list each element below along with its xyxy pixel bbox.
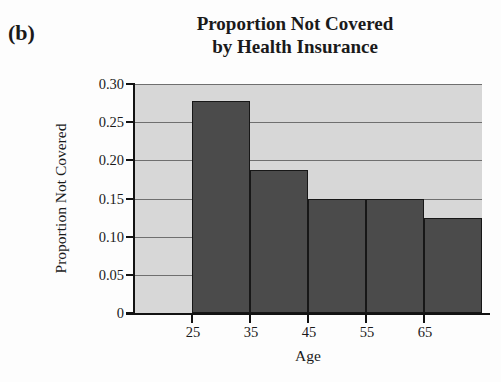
bar	[192, 101, 250, 313]
y-axis-tick	[126, 312, 135, 314]
bar	[366, 199, 424, 314]
y-axis-tick	[126, 159, 135, 161]
bar	[250, 170, 308, 313]
y-axis-tick-label: 0	[82, 306, 124, 321]
chart-title: Proportion Not Covered by Health Insuran…	[120, 12, 470, 58]
y-axis-tick-label: 0.25	[82, 115, 124, 130]
y-axis-tick-label: 0.05	[82, 268, 124, 283]
y-axis-tick	[126, 274, 135, 276]
y-axis-tick-label: 0.15	[82, 192, 124, 207]
x-axis-tick-label: 35	[231, 325, 271, 340]
chart-title-line-2: by Health Insurance	[120, 35, 470, 58]
plot-area	[134, 84, 482, 313]
bars-series	[134, 84, 482, 313]
x-axis-title: Age	[134, 348, 482, 364]
panel-label: (b)	[8, 22, 35, 44]
y-axis-tick-labels: 0.300.250.200.150.100.050	[78, 0, 124, 382]
y-axis-tick-label: 0.20	[82, 153, 124, 168]
x-axis-tick	[423, 314, 425, 323]
y-axis-title: Proportion Not Covered	[52, 84, 70, 313]
y-axis-tick	[126, 83, 135, 85]
bar	[308, 199, 366, 314]
x-axis-tick-label: 45	[289, 325, 329, 340]
y-axis-tick-label: 0.10	[82, 230, 124, 245]
y-axis-tick	[126, 198, 135, 200]
y-axis-tick-label: 0.30	[82, 77, 124, 92]
x-axis-tick-label: 55	[347, 325, 387, 340]
chart-title-line-1: Proportion Not Covered	[120, 12, 470, 35]
figure-panel: (b) Proportion Not Covered by Health Ins…	[0, 0, 501, 382]
bar	[424, 218, 482, 313]
x-axis-tick-label: 65	[405, 325, 445, 340]
y-axis-tick	[126, 236, 135, 238]
x-axis-tick	[307, 314, 309, 323]
x-axis-tick-label: 25	[173, 325, 213, 340]
x-axis-tick	[191, 314, 193, 323]
x-axis-tick	[365, 314, 367, 323]
x-axis-tick	[249, 314, 251, 323]
y-axis-tick	[126, 121, 135, 123]
